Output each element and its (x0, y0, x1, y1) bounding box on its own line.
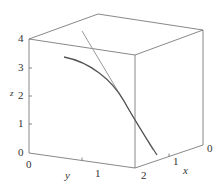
x-tick-1: 1 (173, 156, 179, 167)
x-axis-label: x (183, 165, 188, 176)
z-tick-3: 3 (18, 62, 24, 73)
x-tick-0: 0 (207, 143, 213, 154)
z-tick-1: 1 (18, 118, 24, 129)
box-edge (135, 30, 203, 55)
z-ticks (29, 68, 32, 124)
z-axis-label: z (10, 89, 14, 98)
box-edge (29, 14, 98, 39)
y-axis-label: y (65, 170, 70, 181)
3d-plot (0, 0, 220, 188)
series-curve (64, 57, 157, 155)
z-tick-4: 4 (18, 33, 24, 44)
y-tick-1: 1 (95, 168, 101, 179)
y-tick-2: 2 (141, 170, 147, 181)
box-edge (29, 39, 135, 55)
z-tick-2: 2 (18, 90, 24, 101)
y-tick-0: 0 (26, 159, 32, 170)
z-tick-0: 0 (18, 147, 24, 158)
box-edge (98, 14, 203, 30)
bounding-box (29, 14, 203, 168)
